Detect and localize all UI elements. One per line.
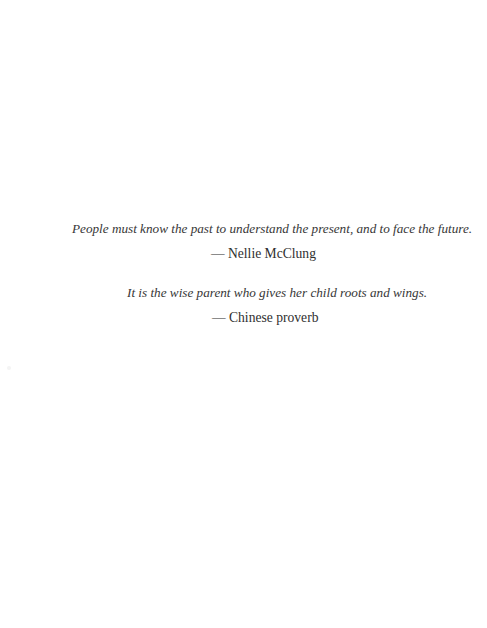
epigraph-second: It is the wise parent who gives her chil… — [0, 283, 487, 328]
epigraph-quote-text: It is the wise parent who gives her chil… — [0, 283, 487, 303]
scan-artifact-speck — [7, 366, 11, 370]
epigraph-attribution: — Chinese proverb — [0, 308, 487, 328]
book-page: People must know the past to understand … — [0, 0, 487, 628]
epigraph-quote-text: People must know the past to understand … — [0, 219, 487, 239]
epigraph-first: People must know the past to understand … — [0, 219, 487, 264]
epigraph-attribution: — Nellie McClung — [0, 244, 487, 264]
